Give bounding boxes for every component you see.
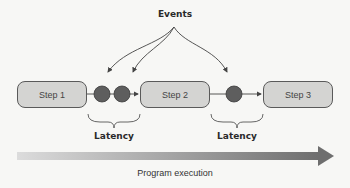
- latency-label-2: Latency: [217, 131, 257, 141]
- step-1-box: Step 1: [17, 81, 87, 108]
- event-dot-3: [226, 86, 242, 102]
- latency-label-1: Latency: [94, 131, 134, 141]
- event-dot-1: [94, 86, 110, 102]
- latency-brace-2: [211, 114, 263, 128]
- step-1-label: Step 1: [39, 90, 65, 100]
- latency-brace-1: [88, 114, 140, 128]
- step-3-box: Step 3: [263, 81, 333, 108]
- event-arrow-1: [108, 27, 174, 72]
- event-pointer-arrows: [108, 27, 227, 72]
- event-arrow-2: [133, 27, 174, 72]
- latency-braces: [88, 114, 263, 128]
- step-2-box: Step 2: [140, 81, 210, 108]
- step-3-label: Step 3: [285, 90, 311, 100]
- events-label: Events: [158, 9, 192, 19]
- step-2-label: Step 2: [162, 90, 188, 100]
- program-execution-label: Program execution: [137, 168, 213, 178]
- program-execution-arrow: [17, 146, 334, 166]
- event-dot-2: [114, 86, 130, 102]
- event-arrow-3: [174, 27, 227, 72]
